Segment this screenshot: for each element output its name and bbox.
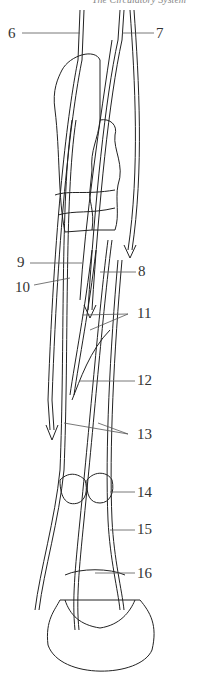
label-14: 14 bbox=[137, 485, 152, 500]
label-11: 11 bbox=[137, 306, 151, 321]
label-8: 8 bbox=[138, 264, 146, 279]
label-6: 6 bbox=[8, 26, 16, 41]
label-13: 13 bbox=[137, 427, 152, 442]
limb-circulation-diagram bbox=[0, 0, 197, 686]
label-15: 15 bbox=[137, 522, 152, 537]
label-16: 16 bbox=[137, 566, 152, 581]
vessels-left bbox=[35, 10, 84, 610]
label-12: 12 bbox=[137, 373, 152, 388]
label-9: 9 bbox=[17, 255, 25, 270]
label-10: 10 bbox=[15, 280, 30, 295]
vessels-center bbox=[70, 10, 124, 630]
label-7: 7 bbox=[156, 26, 164, 41]
